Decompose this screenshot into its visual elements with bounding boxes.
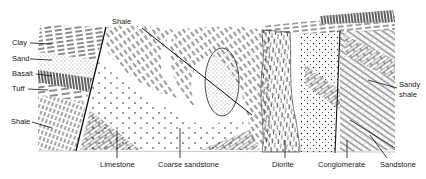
central-block <box>80 26 270 150</box>
label-shale-top: Shale <box>112 17 131 26</box>
label-coarse-sandstone: Coarse sandstone <box>158 160 219 169</box>
label-sandy-shale-line1: Sandy <box>399 80 420 89</box>
label-diorite: Diorite <box>272 160 294 169</box>
geological-cross-section <box>0 0 426 179</box>
label-sand: Sand <box>12 54 30 63</box>
label-basalt: Basalt <box>12 69 33 78</box>
label-tuff: Tuff <box>12 84 25 93</box>
label-shale-left: Shale <box>11 117 30 126</box>
diorite-intrusion <box>261 30 300 152</box>
label-sandstone: Sandstone <box>380 160 416 169</box>
label-clay: Clay <box>12 38 27 47</box>
label-conglomerate: Conglomerate <box>318 160 365 169</box>
top-basalt-cap <box>320 10 395 24</box>
shale-layer-left <box>38 95 86 151</box>
label-sandy-shale-line2: shale <box>399 90 417 99</box>
label-limestone: Limestone <box>100 160 135 169</box>
